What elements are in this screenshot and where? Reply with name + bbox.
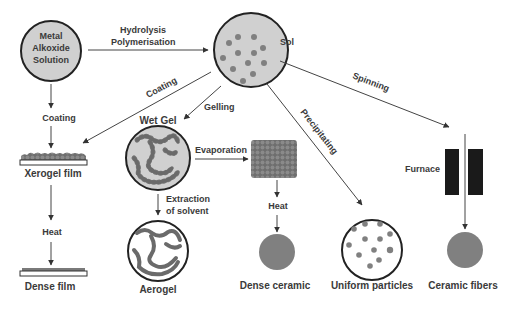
metal-alkoxide-label-1: Metal <box>39 31 62 41</box>
metal-alkoxide-node: Metal Alkoxide Solution <box>21 21 81 81</box>
extraction-edge: Extraction of solvent <box>158 194 210 216</box>
metal-alkoxide-label-2: Alkoxide <box>32 43 70 53</box>
evaporated-block-node <box>251 140 297 178</box>
heat-ceramic-edge: Heat <box>268 180 288 232</box>
ceramic-fibers-circle <box>447 232 483 268</box>
dense-ceramic-node: Dense ceramic <box>240 234 311 291</box>
evaporation-label: Evaporation <box>195 145 247 155</box>
gelling-edge: Gelling <box>184 86 235 119</box>
sol-gel-diagram: Metal Alkoxide Solution Hydrolysis Polym… <box>0 0 510 309</box>
evaporated-block <box>251 140 297 178</box>
dense-film-label: Dense film <box>25 281 76 292</box>
uniform-particles-node: Uniform particles <box>331 220 414 291</box>
ceramic-fibers-label: Ceramic fibers <box>428 280 498 291</box>
dense-ceramic-circle <box>259 234 295 270</box>
coating-left-label: Coating <box>42 113 76 123</box>
heat-film-label: Heat <box>42 227 62 237</box>
furnace-left-wall <box>445 149 459 195</box>
ceramic-fibers-node: Ceramic fibers <box>428 232 498 291</box>
sol-label: Sol <box>280 37 294 47</box>
extraction-label-1: Extraction <box>166 194 210 204</box>
wet-gel-label: Wet Gel <box>139 115 176 126</box>
aerogel-label: Aerogel <box>139 284 176 295</box>
extraction-label-2: of solvent <box>166 206 209 216</box>
hydrolysis-label-1: Hydrolysis <box>120 25 166 35</box>
furnace-right-wall <box>468 149 483 195</box>
xerogel-beads <box>21 153 86 161</box>
furnace-label: Furnace <box>405 164 440 174</box>
gelling-label: Gelling <box>204 102 235 112</box>
heat-ceramic-label: Heat <box>268 201 288 211</box>
xerogel-substrate <box>20 160 87 165</box>
evaporation-edge: Evaporation <box>195 145 248 159</box>
xerogel-film-node: Xerogel film <box>20 153 87 180</box>
coating-diag-label: Coating <box>144 75 178 100</box>
hydrolysis-label-2: Polymerisation <box>111 37 176 47</box>
xerogel-film-label: Xerogel film <box>24 168 81 179</box>
dense-film-node: Dense film <box>20 268 87 292</box>
uniform-particles-label: Uniform particles <box>331 280 414 291</box>
heat-film-edge: Heat <box>42 185 62 265</box>
spinning-label: Spinning <box>351 71 391 94</box>
sol-node: Sol <box>214 13 294 87</box>
dense-film-substrate <box>20 271 87 276</box>
hydrolysis-edge: Hydrolysis Polymerisation <box>88 25 208 50</box>
dense-ceramic-label: Dense ceramic <box>240 280 311 291</box>
metal-alkoxide-label-3: Solution <box>33 55 69 65</box>
wet-gel-node: Wet Gel <box>126 115 190 190</box>
aerogel-node: Aerogel <box>128 221 188 295</box>
furnace-node: Furnace <box>405 134 483 229</box>
coating-left-edge: Coating <box>42 84 76 148</box>
